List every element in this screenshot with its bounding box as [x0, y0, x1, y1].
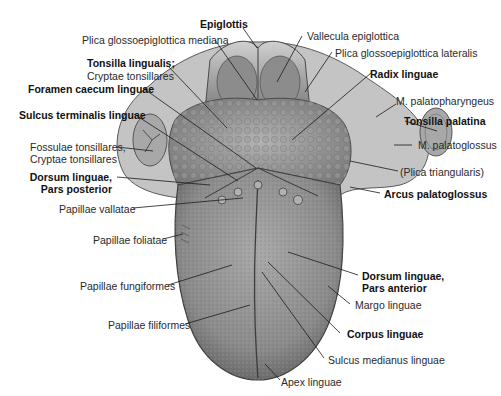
label-margo-linguae: Margo linguae	[355, 299, 422, 311]
label-papillae-foliatae: Papillae foliatae	[93, 234, 167, 246]
label-plica-triangularis: (Plica triangularis)	[400, 166, 484, 178]
label-plica-glossoepiglottica-lateralis: Plica glossoepiglottica lateralis	[335, 47, 477, 59]
label-apex-linguae: Apex linguae	[281, 376, 342, 388]
label-dorsum-linguae-posterior: Dorsum linguae,	[20, 171, 112, 183]
label-pars-anterior: Pars anterior	[362, 282, 427, 294]
label-pars-posterior: Pars posterior	[20, 183, 112, 195]
label-corpus-linguae: Corpus linguae	[347, 328, 423, 340]
label-sulcus-medianus-linguae: Sulcus medianus linguae	[328, 354, 445, 366]
label-tonsilla-lingualis: Tonsilla lingualis;	[87, 57, 175, 69]
label-vallecula-epiglottica: Vallecula epiglottica	[307, 30, 399, 42]
label-arcus-palatoglossus: Arcus palatoglossus	[384, 188, 487, 200]
label-epiglottis: Epiglottis	[200, 18, 248, 30]
label-cryptae-tonsillares-lingual: Cryptae tonsillares	[87, 70, 174, 82]
label-foramen-caecum-linguae: Foramen caecum linguae	[28, 83, 154, 95]
label-cryptae-tonsillares-palatine: Cryptae tonsillares	[30, 153, 115, 165]
tongue-anatomy-figure: Epiglottis Plica glossoepiglottica media…	[0, 0, 501, 396]
label-plica-glossoepiglottica-mediana: Plica glossoepiglottica mediana	[82, 34, 229, 46]
label-tonsilla-palatina: Tonsilla palatina	[404, 115, 486, 127]
label-dorsum-linguae-anterior: Dorsum linguae,	[362, 270, 444, 282]
label-m-palatopharyngeus: M. palatopharyngeus	[396, 95, 494, 107]
label-sulcus-terminalis-linguae: Sulcus terminalis linguae	[19, 109, 146, 121]
label-papillae-filiformes: Papillae filiformes	[108, 319, 190, 331]
label-papillae-vallatae: Papillae vallatae	[59, 203, 135, 215]
label-radix-linguae: Radix linguae	[370, 68, 438, 80]
label-m-palatoglossus: M. palatoglossus	[418, 139, 497, 151]
label-fossulae-tonsillares: Fossulae tonsillares,	[30, 141, 115, 153]
tonsilla-palatina-left	[133, 114, 167, 166]
label-papillae-fungiformes: Papillae fungiformes	[80, 280, 175, 292]
corpus-linguae	[175, 168, 343, 380]
